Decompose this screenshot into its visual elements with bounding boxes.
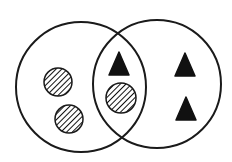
filled-triangle-icon bbox=[176, 97, 196, 120]
venn-diagram bbox=[0, 0, 232, 162]
right-set-circle bbox=[93, 20, 221, 148]
hatched-circle-icon bbox=[106, 83, 136, 113]
filled-triangle-icon bbox=[175, 53, 195, 76]
hatched-circle-icon bbox=[44, 68, 72, 96]
set-items bbox=[44, 52, 196, 133]
filled-triangle-icon bbox=[109, 52, 129, 75]
hatched-circle-icon bbox=[55, 105, 83, 133]
